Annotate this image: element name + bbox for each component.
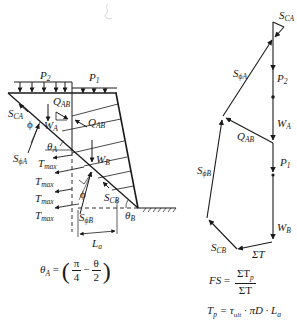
eq-fs-den: ΣT (235, 284, 256, 296)
poly-label-qab-sub: AB (245, 135, 254, 144)
tmax-arrows (53, 155, 84, 208)
eq-theta-lhs-sub: A (45, 269, 50, 278)
stray-mark (105, 4, 112, 19)
surcharge-arrows-p1 (83, 88, 105, 93)
poly-label-scb: SCB (211, 242, 226, 255)
eq-theta-equals: = (53, 263, 59, 275)
label-wa: WA (44, 120, 58, 133)
equation-tp: Tp = τult · πD · La (207, 305, 281, 319)
label-sphia-sub: ϕA (19, 157, 27, 166)
label-phi-b: ϕ (80, 189, 86, 200)
label-scb-sub: CB (110, 196, 120, 205)
eq-tp-lhs-sub: p (213, 310, 217, 319)
poly-label-wa: WA (277, 118, 291, 131)
label-sphia: SϕA (13, 153, 27, 166)
label-wb-sub: B (105, 158, 110, 167)
equation-theta-a: θA = (π4−θ2) (40, 258, 111, 283)
poly-label-p2-base: P (277, 72, 284, 84)
label-qab-lower: QAB (88, 117, 105, 130)
label-wa-base: W (44, 119, 53, 131)
label-tmax-2-sub: max (41, 180, 54, 189)
label-tmax-1-sub: max (44, 162, 57, 171)
label-wb-base: W (96, 153, 105, 165)
eq-tp-rhs-b: · πD · L (241, 304, 277, 316)
poly-label-p1-base: P (280, 156, 287, 168)
eq-fs-frac: ΣTpΣT (235, 268, 256, 296)
surcharge-arrows-p2 (20, 82, 65, 92)
label-p2: P2 (40, 70, 50, 83)
label-wa-sub: A (53, 124, 58, 133)
label-theta-a-sub: A (52, 145, 57, 154)
poly-label-p1-sub: 1 (287, 161, 291, 170)
label-theta-a: θA (47, 141, 57, 154)
eq-fs-num-base: ΣT (237, 267, 250, 279)
eq-fs-num-sub: p (250, 273, 254, 282)
ground-hatch (143, 208, 176, 212)
poly-label-sca: SCA (279, 10, 294, 23)
label-tmax-3: Tmax (35, 193, 54, 206)
label-qab-upper-base: Q (53, 95, 61, 107)
poly-label-p1: P1 (280, 157, 290, 170)
eq-fs-equals: = (224, 274, 230, 286)
label-phi-a: ϕ (27, 119, 33, 130)
poly-label-scb-sub: CB (217, 246, 227, 255)
label-sca-sub: CA (14, 112, 24, 121)
poly-label-sphib: SϕB (197, 165, 211, 178)
eq-theta-minus: − (83, 263, 89, 275)
label-qab-upper: QAB (53, 96, 70, 109)
label-p2-base: P (40, 69, 47, 81)
eq-fs-num: ΣTp (235, 268, 256, 284)
label-la-sub: a (98, 242, 102, 251)
label-wb: WB (96, 154, 110, 167)
poly-label-qab-base: Q (237, 130, 245, 142)
poly-label-sphia: SϕA (233, 68, 247, 81)
poly-label-p2: P2 (277, 73, 287, 86)
poly-label-sigma-t: ΣT (252, 249, 265, 260)
poly-label-wb-sub: B (286, 226, 291, 235)
label-p1: P1 (89, 72, 99, 85)
label-tmax-4-sub: max (41, 214, 54, 223)
eq-theta-frac2-den: 2 (92, 271, 101, 283)
eq-tp-rhs-a: = τ (220, 304, 234, 316)
label-p1-sub: 1 (96, 76, 100, 85)
label-tmax-4: Tmax (35, 210, 54, 223)
label-theta-b: θB (125, 210, 135, 223)
poly-label-p2-sub: 2 (284, 77, 288, 86)
eq-theta-open-paren: ( (62, 258, 70, 284)
label-qab-lower-sub: AB (96, 121, 105, 130)
eq-theta-close-paren: ) (103, 258, 111, 284)
poly-label-wa-base: W (277, 117, 286, 129)
eq-tp-rhs-sub2: a (277, 310, 281, 319)
label-qab-upper-sub: AB (61, 100, 70, 109)
label-p2-sub: 2 (47, 74, 51, 83)
equation-fs: FS = ΣTpΣT (209, 268, 258, 296)
label-scb: SCB (104, 192, 119, 205)
label-p1-base: P (89, 71, 96, 83)
label-theta-b-sub: B (130, 214, 135, 223)
label-tmax-3-sub: max (41, 197, 54, 206)
eq-theta-frac1-den: 4 (72, 271, 82, 283)
eq-theta-frac1: π4 (72, 258, 82, 283)
poly-label-sphia-sub: ϕA (239, 72, 247, 81)
eq-theta-frac1-num: π (72, 258, 82, 271)
poly-label-sca-sub: CA (285, 14, 295, 23)
poly-label-wb: WB (277, 222, 291, 235)
poly-label-sphib-sub: ϕB (203, 169, 211, 178)
poly-label-wb-base: W (277, 221, 286, 233)
label-tmax-1: Tmax (38, 158, 57, 171)
poly-label-qab: QAB (237, 131, 254, 144)
label-tmax-2: Tmax (35, 176, 54, 189)
label-qab-lower-base: Q (88, 116, 96, 128)
label-la: La (92, 238, 102, 251)
label-sphib-sub: ϕB (85, 216, 93, 225)
label-sphib: SϕB (79, 212, 93, 225)
eq-fs-lhs: FS (209, 274, 221, 286)
eq-theta-frac2: θ2 (92, 258, 101, 283)
eq-theta-frac2-num: θ (92, 258, 101, 271)
label-sca: SCA (8, 108, 23, 121)
poly-label-wa-sub: A (286, 122, 291, 131)
